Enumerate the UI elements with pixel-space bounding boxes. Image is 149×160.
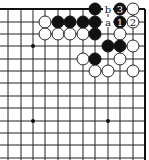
move-number: 3	[117, 4, 123, 15]
white-stone	[77, 28, 89, 40]
black-stone: 3	[114, 3, 126, 15]
black-stone	[89, 53, 101, 65]
go-board-diagram: ba 312	[0, 0, 149, 160]
move-number: 2	[130, 17, 136, 28]
white-stone	[102, 65, 114, 77]
black-stone	[89, 3, 101, 15]
black-stone	[64, 16, 76, 28]
white-stone	[52, 28, 64, 40]
point-label-b: b	[105, 4, 111, 15]
black-stone	[52, 16, 64, 28]
white-stone: 2	[127, 16, 139, 28]
white-stone	[114, 28, 126, 40]
stones: 312	[39, 3, 139, 77]
black-stone	[89, 28, 101, 40]
star-point	[31, 119, 35, 123]
white-stone	[127, 65, 139, 77]
white-stone	[89, 65, 101, 77]
black-stone	[114, 40, 126, 52]
white-stone	[114, 53, 126, 65]
white-stone	[64, 28, 76, 40]
move-number: 1	[117, 17, 123, 28]
white-stone	[127, 3, 139, 15]
black-stone	[77, 16, 89, 28]
point-label-a: a	[105, 17, 111, 28]
black-stone	[102, 40, 114, 52]
star-point	[106, 119, 110, 123]
star-point	[31, 44, 35, 48]
black-stone	[89, 16, 101, 28]
white-stone	[127, 40, 139, 52]
white-stone	[39, 28, 51, 40]
white-stone	[39, 16, 51, 28]
black-stone: 1	[114, 16, 126, 28]
white-stone	[77, 53, 89, 65]
